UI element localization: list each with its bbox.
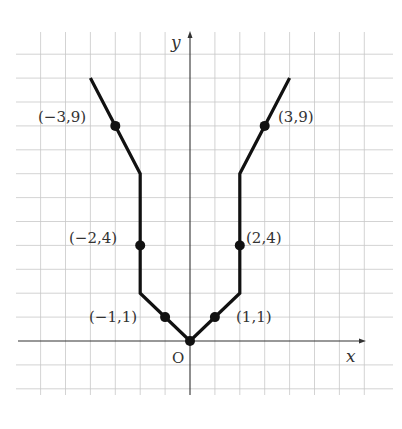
point-marker [160,312,170,322]
point-marker [110,121,120,131]
point-marker [185,336,195,346]
coordinate-graph: x y O (−3,9) (3,9) (−2,4) (2,4) (−1,1) (… [0,0,402,429]
point-marker [210,312,220,322]
label-point-3-9: (3,9) [278,108,314,126]
x-axis-label: x [346,346,356,366]
y-axis-label: y [170,32,181,52]
label-point-neg3-9: (−3,9) [38,108,86,126]
y-axis-arrow-icon [188,31,193,38]
label-point-2-4: (2,4) [246,229,282,247]
label-point-1-1: (1,1) [236,308,272,326]
point-marker [260,121,270,131]
point-marker [235,240,245,250]
point-marker [135,240,145,250]
label-point-neg1-1: (−1,1) [89,308,137,326]
origin-label: O [172,349,184,367]
label-point-neg2-4: (−2,4) [69,229,117,247]
x-axis-arrow-icon [359,339,366,344]
